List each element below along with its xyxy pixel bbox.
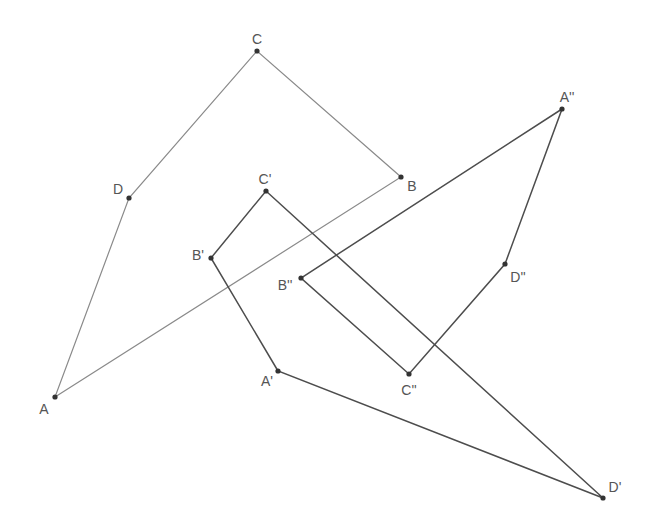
point-b[interactable] — [398, 174, 403, 179]
point-c2[interactable] — [406, 371, 411, 376]
point-b1[interactable] — [208, 255, 213, 260]
point-label-c2: C'' — [401, 382, 416, 398]
point-label-a: A — [39, 401, 49, 417]
point-label-d2: D'' — [510, 269, 525, 285]
point-label-c: C — [252, 31, 262, 47]
polygon-abcd — [55, 51, 401, 397]
polygon-appbppcppdpp — [301, 109, 562, 374]
point-label-c1: C' — [259, 171, 272, 187]
point-a2[interactable] — [559, 106, 564, 111]
point-label-d1: D' — [609, 479, 622, 495]
geometry-canvas: ABCDA'B'C'D'A''B''C''D'' — [0, 0, 656, 528]
point-a1[interactable] — [275, 368, 280, 373]
point-d2[interactable] — [502, 261, 507, 266]
point-d1[interactable] — [600, 495, 605, 500]
point-label-b: B — [407, 178, 416, 194]
point-c1[interactable] — [263, 188, 268, 193]
point-c[interactable] — [254, 48, 259, 53]
point-label-d: D — [113, 181, 123, 197]
point-label-a2: A'' — [560, 89, 575, 105]
point-label-a1: A' — [261, 373, 273, 389]
point-a[interactable] — [52, 394, 57, 399]
point-b2[interactable] — [298, 275, 303, 280]
point-label-b2: B'' — [278, 277, 293, 293]
point-label-b1: B' — [192, 247, 204, 263]
polygon-apbpcpdp — [211, 191, 603, 498]
labels-layer: ABCDA'B'C'D'A''B''C''D'' — [39, 31, 621, 495]
point-d[interactable] — [126, 195, 131, 200]
